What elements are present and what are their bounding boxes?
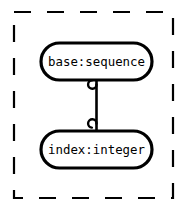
node-base-sequence-label: base:sequence (48, 54, 145, 69)
node-index-integer-label: index:integer (48, 142, 145, 157)
diagram-svg: base:sequence index:integer (0, 0, 190, 210)
diagram-canvas: base:sequence index:integer (0, 0, 190, 210)
dashed-boundary (14, 12, 173, 198)
